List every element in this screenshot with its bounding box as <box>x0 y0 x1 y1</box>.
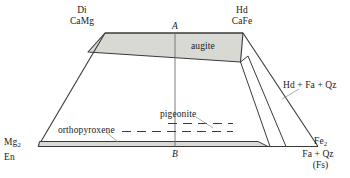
pyroxene-phase-diagram: Di CaMg Hd CaFe Mg2 En Fe2 Fa + Qz (Fs) … <box>0 0 350 178</box>
axis-marker-a: A <box>169 21 181 32</box>
corner-label-enstatite: Mg2 En <box>4 137 44 163</box>
field-label-pigeonite: pigeonite <box>160 109 196 120</box>
wedge-apex-connector <box>241 56 249 62</box>
corner-label-enstatite-subscript: 2 <box>17 141 21 148</box>
corner-label-hedenbergite: Hd CaFe <box>216 5 268 26</box>
pigeonite-leader-line <box>196 117 213 128</box>
corner-label-diopside-line1: Di <box>56 5 108 16</box>
corner-label-ferrosilite-element: Fe <box>314 136 324 146</box>
corner-label-enstatite-line2: En <box>4 152 44 163</box>
corner-label-ferrosilite-line1: Fe2 <box>314 136 350 149</box>
field-label-orthopyroxene: orthopyroxene <box>58 125 115 136</box>
corner-label-enstatite-element: Mg <box>4 137 17 147</box>
corner-label-diopside-line2: CaMg <box>56 16 108 27</box>
corner-label-ferrosilite-subscript: 2 <box>324 140 328 147</box>
wedge-line-left <box>241 62 271 147</box>
augite-field-shape <box>88 33 243 62</box>
corner-label-hedenbergite-line1: Hd <box>216 5 268 16</box>
corner-label-hedenbergite-line2: CaFe <box>216 16 268 27</box>
corner-label-ferrosilite-line3: (Fs) <box>291 160 350 171</box>
corner-label-enstatite-line1: Mg2 <box>4 137 44 150</box>
axis-marker-b: B <box>169 149 181 160</box>
field-label-augite: augite <box>191 41 215 52</box>
corner-label-diopside: Di CaMg <box>56 5 108 26</box>
corner-label-ferrosilite-line2: Fa + Qz <box>286 149 350 160</box>
corner-label-ferrosilite: Fe2 Fa + Qz (Fs) <box>295 136 350 170</box>
orthopyroxene-field-shape <box>39 142 269 147</box>
annotation-hd-fa-qz: Hd + Fa + Qz <box>283 80 337 91</box>
assemblage-leader-line <box>282 89 299 99</box>
